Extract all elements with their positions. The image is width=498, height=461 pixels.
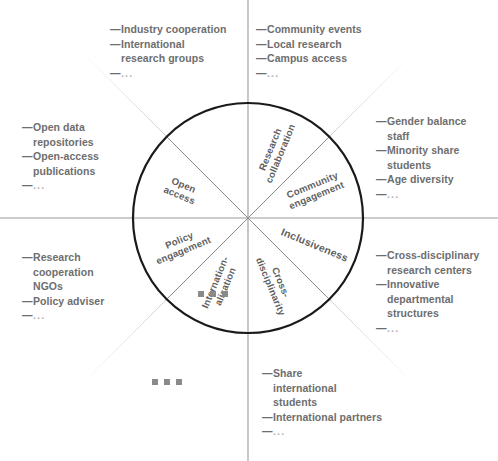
- indicator-item: —...: [256, 66, 406, 81]
- dash-bullet-icon: —: [376, 114, 387, 129]
- indicator-label: Age diversity: [387, 173, 454, 185]
- dash-bullet-icon: —: [376, 248, 387, 263]
- dash-bullet-icon: —: [376, 172, 387, 187]
- dash-bullet-icon: —: [376, 187, 387, 202]
- wedge-label-policy-engagement: Policyengagement: [150, 223, 213, 266]
- wedge-label-inclusiveness: Inclusiveness: [280, 225, 351, 263]
- ellipsis-square-icon: [152, 379, 158, 385]
- internationalization-indicators: —Share international students—Internatio…: [262, 366, 412, 439]
- indicator-item: —...: [262, 424, 412, 439]
- dash-bullet-icon: —: [262, 410, 273, 425]
- indicator-item: —Cross-disciplinary research centers: [376, 248, 498, 277]
- indicator-label: Industry cooperation: [121, 23, 226, 35]
- research-collaboration-indicators: —Industry cooperation—International rese…: [110, 22, 260, 80]
- dash-bullet-icon: —: [22, 120, 33, 135]
- wedge-label-community-engagement: Communityengagement: [283, 168, 346, 211]
- dash-bullet-icon: —: [22, 308, 33, 323]
- indicator-label: ...: [387, 322, 399, 334]
- wedge-label-research-collaboration: Researchcollaboration: [252, 118, 296, 184]
- indicator-label: Community events: [267, 23, 362, 35]
- indicator-item: —...: [22, 178, 140, 193]
- indicator-label: Policy adviser: [33, 295, 104, 307]
- indicator-label: Open data repositories: [33, 121, 94, 148]
- indicator-item: —Age diversity: [376, 172, 498, 187]
- indicator-item: —Minority share students: [376, 143, 498, 172]
- indicator-item: —Policy adviser: [22, 294, 140, 309]
- third-mission-wheel-diagram: ResearchcollaborationCommunityengagement…: [0, 0, 498, 461]
- indicator-label: Innovative departmental structures: [387, 278, 454, 319]
- dash-bullet-icon: —: [256, 37, 267, 52]
- dash-bullet-icon: —: [110, 37, 121, 52]
- dash-bullet-icon: —: [256, 51, 267, 66]
- indicator-item: —Gender balance staff: [376, 114, 498, 143]
- dash-bullet-icon: —: [376, 143, 387, 158]
- dash-bullet-icon: —: [262, 424, 273, 439]
- wedge-label-internationalization: Internation-alization: [199, 254, 240, 313]
- indicator-label: ...: [121, 67, 133, 79]
- indicator-item: —Innovative departmental structures: [376, 277, 498, 321]
- ellipsis-square-icon: [198, 291, 204, 297]
- indicator-item: —Open data repositories: [22, 120, 140, 149]
- dash-bullet-icon: —: [22, 250, 33, 265]
- cross-disciplinarity-indicators: —Cross-disciplinary research centers—Inn…: [376, 248, 498, 336]
- indicator-item: —Open-access publications: [22, 149, 140, 178]
- indicator-item: —...: [110, 66, 260, 81]
- dash-bullet-icon: —: [110, 66, 121, 81]
- open-access-indicators: —Open data repositories—Open-access publ…: [22, 120, 140, 193]
- indicator-label: Local research: [267, 38, 342, 50]
- ellipsis-square-icon: [164, 379, 170, 385]
- dash-bullet-icon: —: [256, 22, 267, 37]
- dash-bullet-icon: —: [376, 277, 387, 292]
- indicator-label: ...: [267, 67, 279, 79]
- indicator-label: ...: [33, 309, 45, 321]
- wedge-label-cross-disciplinarity: Cross-disciplinarity: [254, 251, 298, 317]
- indicator-label: Research cooperation NGOs: [33, 251, 94, 292]
- indicator-item: —International partners: [262, 410, 412, 425]
- dash-bullet-icon: —: [376, 321, 387, 336]
- ellipsis-square-icon: [176, 379, 182, 385]
- indicator-label: ...: [273, 425, 285, 437]
- indicator-label: Minority share students: [387, 144, 459, 171]
- dash-bullet-icon: —: [256, 66, 267, 81]
- indicator-label: Cross-disciplinary research centers: [387, 249, 480, 276]
- outer-ellipsis-mark: [152, 379, 182, 385]
- indicator-item: —...: [376, 187, 498, 202]
- indicator-item: —...: [376, 321, 498, 336]
- indicator-label: Open-access publications: [33, 150, 99, 177]
- indicator-item: —Local research: [256, 37, 406, 52]
- indicator-item: —...: [22, 308, 140, 323]
- dash-bullet-icon: —: [110, 22, 121, 37]
- dash-bullet-icon: —: [22, 178, 33, 193]
- indicator-item: —Share international students: [262, 366, 412, 410]
- policy-engagement-indicators: —Research cooperation NGOs—Policy advise…: [22, 250, 140, 323]
- indicator-label: Campus access: [267, 52, 347, 64]
- indicator-item: —Community events: [256, 22, 406, 37]
- dash-bullet-icon: —: [22, 149, 33, 164]
- indicator-label: Share international students: [273, 367, 337, 408]
- indicator-item: —Research cooperation NGOs: [22, 250, 140, 294]
- indicator-label: ...: [387, 188, 399, 200]
- community-engagement-indicators: —Community events—Local research—Campus …: [256, 22, 406, 80]
- inner-ellipsis-mark: [198, 291, 228, 297]
- inclusiveness-indicators: —Gender balance staff—Minority share stu…: [376, 114, 498, 202]
- wedge-label-open-access: Openaccess: [162, 173, 201, 206]
- indicator-label: International research groups: [121, 38, 204, 65]
- ellipsis-square-icon: [222, 291, 228, 297]
- dash-bullet-icon: —: [22, 294, 33, 309]
- indicator-item: —Industry cooperation: [110, 22, 260, 37]
- indicator-label: International partners: [273, 411, 382, 423]
- indicator-label: Gender balance staff: [387, 115, 466, 142]
- dash-bullet-icon: —: [262, 366, 273, 381]
- indicator-item: —International research groups: [110, 37, 260, 66]
- ellipsis-square-icon: [210, 291, 216, 297]
- indicator-item: —Campus access: [256, 51, 406, 66]
- indicator-label: ...: [33, 179, 45, 191]
